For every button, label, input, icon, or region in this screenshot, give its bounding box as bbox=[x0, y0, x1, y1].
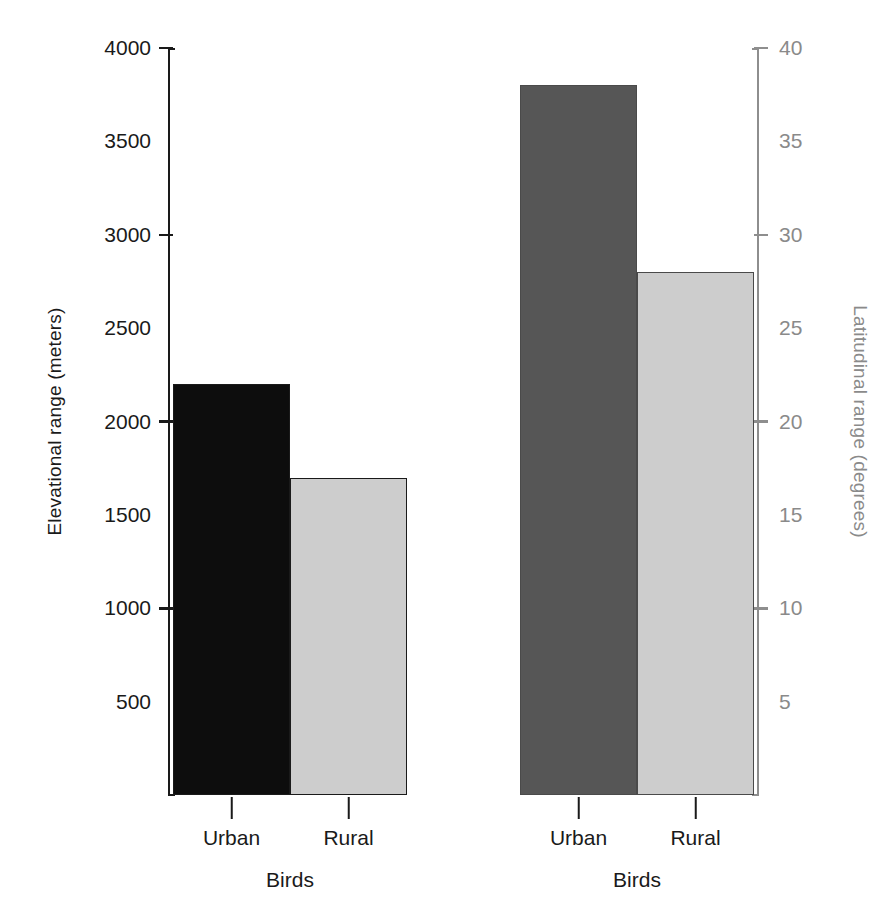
x-axis-label-urban-0: Urban bbox=[203, 826, 260, 850]
left-tick-label-500: 500 bbox=[116, 690, 151, 714]
x-tick-3 bbox=[694, 797, 697, 819]
left-tick-3000 bbox=[159, 234, 173, 237]
right-tick-label-15: 15 bbox=[779, 503, 802, 527]
left-tick-4000 bbox=[159, 47, 173, 50]
plot-area bbox=[173, 48, 746, 795]
bar-birds-urban-right[interactable] bbox=[520, 85, 637, 795]
left-tick-label-2500: 2500 bbox=[104, 316, 151, 340]
right-y-axis-title: Latitudinal range (degrees) bbox=[849, 48, 871, 795]
left-tick-label-3000: 3000 bbox=[104, 223, 151, 247]
right-tick-label-30: 30 bbox=[779, 223, 802, 247]
right-tick-label-35: 35 bbox=[779, 129, 802, 153]
left-tick-label-1000: 1000 bbox=[104, 596, 151, 620]
bar-chart-figure: Elevational range (meters) Latitudinal r… bbox=[0, 0, 893, 921]
right-tick-10 bbox=[754, 607, 768, 610]
left-tick-2000 bbox=[159, 420, 173, 423]
right-tick-label-10: 10 bbox=[779, 596, 802, 620]
right-tick-label-40: 40 bbox=[779, 36, 802, 60]
group-label-1: Birds bbox=[613, 868, 661, 892]
x-tick-0 bbox=[230, 797, 233, 819]
right-tick-label-25: 25 bbox=[779, 316, 802, 340]
x-axis-label-rural-1: Rural bbox=[323, 826, 373, 850]
left-tick-label-1500: 1500 bbox=[104, 503, 151, 527]
bar-birds-rural-left[interactable] bbox=[290, 478, 407, 795]
x-axis-label-urban-2: Urban bbox=[550, 826, 607, 850]
left-tick-1000 bbox=[159, 607, 173, 610]
left-tick-label-3500: 3500 bbox=[104, 129, 151, 153]
right-tick-20 bbox=[754, 420, 768, 423]
group-label-0: Birds bbox=[266, 868, 314, 892]
left-y-axis-title: Elevational range (meters) bbox=[44, 48, 66, 795]
x-tick-2 bbox=[577, 797, 580, 819]
left-tick-label-4000: 4000 bbox=[104, 36, 151, 60]
right-tick-40 bbox=[754, 47, 768, 50]
x-tick-1 bbox=[347, 797, 350, 819]
right-tick-label-5: 5 bbox=[779, 690, 791, 714]
right-tick-30 bbox=[754, 234, 768, 237]
x-axis-label-rural-3: Rural bbox=[670, 826, 720, 850]
bar-birds-rural-right[interactable] bbox=[637, 272, 754, 795]
bar-birds-urban-left[interactable] bbox=[173, 384, 290, 795]
left-tick-label-2000: 2000 bbox=[104, 410, 151, 434]
right-tick-label-20: 20 bbox=[779, 410, 802, 434]
